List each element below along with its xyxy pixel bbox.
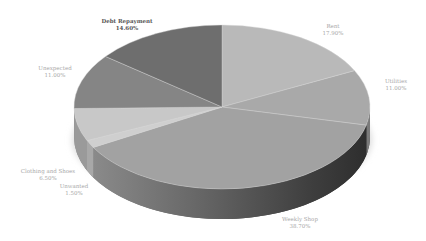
- pie-tops: [74, 25, 370, 189]
- label-name: Unwanted: [60, 183, 89, 190]
- label-name: Rent: [323, 23, 344, 30]
- label-name: Debt Repayment: [101, 18, 152, 25]
- label-name: Clothing and Shoes: [21, 168, 75, 175]
- label-value: 14.60%: [101, 25, 152, 32]
- label-name: Unexpected: [38, 65, 71, 72]
- label-debt-repayment: Debt Repayment 14.60%: [101, 18, 152, 32]
- label-value: 17.90%: [323, 30, 344, 37]
- label-clothing-and-shoes: Clothing and Shoes 6.50%: [21, 168, 75, 182]
- label-value: 11.00%: [38, 72, 71, 79]
- label-unwanted: Unwanted 1.50%: [60, 183, 89, 197]
- label-value: 11.00%: [385, 85, 407, 92]
- label-value: 38.70%: [282, 223, 318, 230]
- pie-chart: [0, 0, 426, 241]
- label-name: Utilities: [385, 78, 407, 85]
- label-name: Weekly Shop: [282, 216, 318, 223]
- label-utilities: Utilities 11.00%: [385, 78, 407, 92]
- label-weekly-shop: Weekly Shop 38.70%: [282, 216, 318, 230]
- label-value: 6.50%: [21, 175, 75, 182]
- label-unexpected: Unexpected 11.00%: [38, 65, 71, 79]
- label-rent: Rent 17.90%: [323, 23, 344, 37]
- label-value: 1.50%: [60, 190, 89, 197]
